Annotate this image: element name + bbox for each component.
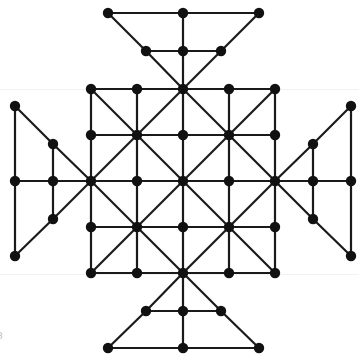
- graph-node: [132, 84, 142, 94]
- graph-node: [132, 130, 142, 140]
- graph-node: [216, 306, 226, 316]
- graph-node: [270, 84, 280, 94]
- graph-node: [346, 251, 356, 261]
- graph-node: [308, 139, 318, 149]
- graph-node: [86, 84, 96, 94]
- graph-node: [270, 268, 280, 278]
- graph-node: [178, 268, 188, 278]
- graph-node: [48, 214, 58, 224]
- graph-node: [86, 130, 96, 140]
- graph-node: [178, 130, 188, 140]
- graph-edge: [137, 135, 183, 181]
- graph-node: [10, 176, 20, 186]
- graph-edge: [91, 181, 137, 227]
- graph-edge: [229, 181, 275, 227]
- graph-node: [141, 306, 151, 316]
- graph-edge: [183, 51, 221, 89]
- graph-node: [178, 306, 188, 316]
- graph-node: [132, 222, 142, 232]
- page-corner-label: 8: [0, 329, 3, 342]
- graph-edge: [183, 227, 229, 273]
- graph-edge: [313, 219, 351, 256]
- graph-node: [254, 8, 264, 18]
- graph-node: [48, 139, 58, 149]
- graph-node: [254, 343, 264, 353]
- graph-edge: [137, 89, 183, 135]
- graph-edge: [221, 13, 259, 51]
- graph-node: [86, 268, 96, 278]
- graph-node: [178, 84, 188, 94]
- graph-edge: [53, 144, 91, 181]
- graph-node: [308, 214, 318, 224]
- graph-node: [132, 268, 142, 278]
- graph-node: [346, 176, 356, 186]
- graph-edge: [183, 273, 221, 311]
- graph-node: [178, 176, 188, 186]
- graph-node: [86, 176, 96, 186]
- graph-edge: [313, 106, 351, 144]
- graph-node: [270, 222, 280, 232]
- graph-node: [178, 343, 188, 353]
- graph-edge: [221, 311, 259, 348]
- graph-node: [270, 130, 280, 140]
- graph-edge: [137, 227, 183, 273]
- graph-node: [86, 222, 96, 232]
- graph-node: [224, 268, 234, 278]
- graph-node: [224, 176, 234, 186]
- graph-edge: [275, 144, 313, 181]
- graph-edge: [15, 219, 53, 256]
- graph-node: [308, 176, 318, 186]
- graph-node: [224, 222, 234, 232]
- graph-node: [224, 84, 234, 94]
- graph-edge: [229, 227, 275, 273]
- graph-node: [270, 176, 280, 186]
- graph-node: [141, 46, 151, 56]
- graph-edge: [53, 181, 91, 219]
- graph-node: [132, 176, 142, 186]
- graph-edge: [183, 181, 229, 227]
- graph-edge: [108, 311, 146, 348]
- graph-node: [216, 46, 226, 56]
- graph-edge: [108, 13, 146, 51]
- graph-node: [103, 8, 113, 18]
- graph-edge: [183, 89, 229, 135]
- graph-node: [178, 8, 188, 18]
- graph-edge: [146, 51, 183, 89]
- graph-node: [10, 101, 20, 111]
- graph-edge: [275, 181, 313, 219]
- graph-node: [178, 46, 188, 56]
- graph-edge: [15, 106, 53, 144]
- graph-diagram: [0, 0, 359, 360]
- graph-edge: [137, 181, 183, 227]
- graph-node: [103, 343, 113, 353]
- graph-node: [48, 176, 58, 186]
- graph-node: [224, 130, 234, 140]
- graph-edge: [229, 135, 275, 181]
- graph-edge: [91, 89, 137, 135]
- graph-node: [346, 101, 356, 111]
- graph-edge: [229, 89, 275, 135]
- graph-edge: [183, 135, 229, 181]
- figure-container: 8: [0, 0, 359, 360]
- graph-edge: [91, 227, 137, 273]
- graph-edge: [146, 273, 183, 311]
- graph-node: [178, 222, 188, 232]
- graph-node: [10, 251, 20, 261]
- graph-edge: [91, 135, 137, 181]
